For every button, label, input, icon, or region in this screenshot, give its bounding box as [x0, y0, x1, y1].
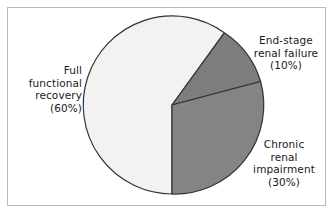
pie-label-chronic-renal-impairment: Chronic renal impairment (30%) — [240, 138, 328, 188]
chart-plot-area: Full functional recovery (60%) End-stage… — [0, 0, 335, 215]
pie-label-end-stage-renal-failure: End-stage renal failure (10%) — [244, 34, 328, 72]
pie-label-full-functional-recovery: Full functional recovery (60%) — [0, 64, 82, 114]
pie-chart-figure: Full functional recovery (60%) End-stage… — [0, 0, 335, 215]
